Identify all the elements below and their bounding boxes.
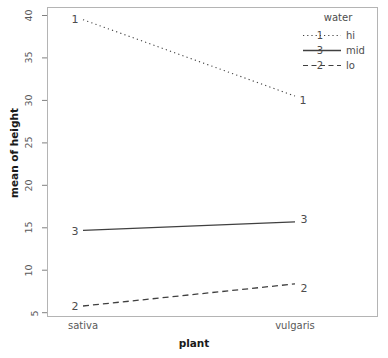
legend-item-mid[interactable]: 3 mid <box>300 44 380 57</box>
y-tick-label-5: 5 <box>17 308 37 319</box>
legend-item-lo[interactable]: 2 lo <box>300 59 380 72</box>
y-tick-label-10: 10 <box>14 265 34 276</box>
legend-label-lo: lo <box>346 60 355 71</box>
series-line-mid <box>83 222 295 231</box>
legend-title: water <box>304 12 372 23</box>
x-tick-label-sativa: sativa <box>68 320 98 331</box>
legend-item-hi[interactable]: 1 hi <box>300 29 380 42</box>
legend-label-hi: hi <box>346 30 355 41</box>
point-label-lo-vulgaris: 2 <box>301 282 308 295</box>
legend-pch-lo: 2 <box>317 59 323 72</box>
legend-pch-mid: 3 <box>317 44 323 57</box>
point-label-mid-sativa: 3 <box>72 225 79 238</box>
x-axis-title: plant <box>0 337 388 349</box>
y-tick-label-40: 40 <box>14 10 34 21</box>
interaction-plot: 40 35 30 25 20 15 10 5 mean of height sa… <box>0 0 388 358</box>
legend-label-mid: mid <box>346 45 365 56</box>
point-label-mid-vulgaris: 3 <box>301 213 308 226</box>
y-axis-title: mean of height <box>8 103 20 203</box>
series-line-hi <box>83 20 295 96</box>
legend: water 1 hi 3 mid <box>300 12 380 74</box>
point-label-hi-vulgaris: 1 <box>300 94 307 107</box>
series-line-lo <box>83 284 295 306</box>
y-tick-label-15: 15 <box>14 222 34 233</box>
legend-pch-hi: 1 <box>317 29 323 42</box>
point-label-lo-sativa: 2 <box>72 300 79 313</box>
x-tick-label-vulgaris: vulgaris <box>275 320 315 331</box>
point-label-hi-sativa: 1 <box>72 13 79 26</box>
y-axis-ticks <box>42 16 47 313</box>
y-tick-label-35: 35 <box>14 52 34 63</box>
